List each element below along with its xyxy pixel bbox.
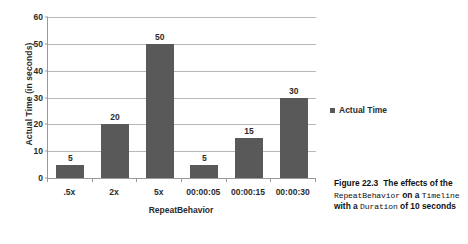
y-tick-label: 0	[38, 173, 43, 183]
bar-slot: 50	[137, 17, 182, 178]
y-tick-label: 30	[34, 93, 43, 103]
bar-value-label: 5	[202, 153, 207, 163]
x-axis-title: RepeatBehavior	[47, 205, 315, 215]
y-tick-label: 40	[34, 66, 43, 76]
x-tick-label: 00:00:15	[231, 187, 265, 197]
bar-value-label: 15	[244, 126, 253, 136]
bar[interactable]	[56, 165, 84, 178]
bar-value-label: 30	[289, 86, 298, 96]
x-tick-mark	[181, 178, 182, 182]
plot-area: 0102030405060 5205051530	[47, 17, 315, 178]
bars-group: 5205051530	[48, 17, 316, 178]
bar-value-label: 50	[155, 32, 164, 42]
caption-text-4: with a	[334, 201, 358, 211]
x-tick-mark	[136, 178, 137, 182]
bar[interactable]	[146, 44, 174, 178]
bar[interactable]	[280, 98, 308, 179]
y-tick-label: 50	[34, 39, 43, 49]
caption-text-3: on a	[402, 190, 419, 200]
caption-text-1: The effects	[383, 178, 427, 188]
x-tick-label: 5x	[154, 187, 163, 197]
caption-code-timeline: Timeline	[422, 191, 460, 200]
figure-caption: Figure 22.3The effects of the RepeatBeha…	[334, 178, 464, 213]
x-tick-mark	[315, 178, 316, 182]
y-tick-label: 20	[34, 119, 43, 129]
bar-chart: Actual Time (in seconds) 0102030405060 5…	[0, 0, 330, 225]
x-tick-mark	[47, 178, 48, 182]
caption-text-2: of the	[430, 178, 453, 188]
bar-value-label: 5	[68, 153, 73, 163]
bar[interactable]	[235, 138, 263, 178]
bar-slot: 5	[48, 17, 93, 178]
caption-figure-number: Figure 22.3	[334, 178, 378, 188]
x-tick-mark	[226, 178, 227, 182]
x-tick-mark	[92, 178, 93, 182]
bar-slot: 20	[93, 17, 138, 178]
caption-code-duration: Duration	[360, 202, 398, 211]
x-axis-labels-group: .5x2x5x00:00:0500:00:1500:00:30	[47, 178, 315, 204]
bar-value-label: 20	[110, 112, 119, 122]
legend-square-marker-icon	[330, 108, 335, 113]
x-tick-label: .5x	[63, 187, 75, 197]
x-tick-mark	[270, 178, 271, 182]
bar[interactable]	[101, 124, 129, 178]
y-tick-label: 10	[34, 146, 43, 156]
bar-slot: 5	[182, 17, 227, 178]
bar-slot: 15	[227, 17, 272, 178]
caption-text-5: of 10 seconds	[400, 201, 456, 211]
legend-entry-label: Actual Time	[339, 105, 387, 115]
figure-container: Actual Time (in seconds) 0102030405060 5…	[0, 0, 468, 244]
bar-slot: 30	[271, 17, 316, 178]
x-tick-label: 00:00:05	[186, 187, 220, 197]
chart-legend: Actual Time	[330, 105, 387, 115]
x-tick-label: 2x	[109, 187, 118, 197]
bar[interactable]	[190, 165, 218, 178]
y-tick-label: 60	[34, 12, 43, 22]
x-tick-label: 00:00:30	[276, 187, 310, 197]
caption-code-repeatbehavior: RepeatBehavior	[334, 191, 400, 200]
y-axis-title: Actual Time (in seconds)	[24, 14, 34, 174]
